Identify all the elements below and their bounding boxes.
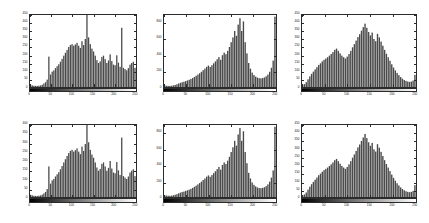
x-tick-mark <box>186 84 187 86</box>
grayscale-colorbar <box>301 88 417 93</box>
x-tick-label: 150 <box>90 204 95 207</box>
x-tick-mark <box>325 84 326 86</box>
x-tick-label: 0 <box>28 204 30 207</box>
y-tick-mark-right <box>134 72 136 73</box>
grayscale-colorbar <box>29 198 137 203</box>
x-tick-label: 0 <box>162 204 164 207</box>
y-tick-mark <box>164 23 166 24</box>
histogram-panel-top-center: 0200400600800050100150200250 <box>163 14 277 88</box>
y-tick-label: 800 <box>156 131 161 134</box>
x-tick-mark-top <box>94 15 95 17</box>
y-tick-label: 600 <box>156 147 161 150</box>
x-tick-mark-top <box>231 125 232 127</box>
x-tick-label: 250 <box>272 204 277 207</box>
x-tick-mark <box>209 195 210 197</box>
x-tick-mark-top <box>209 15 210 17</box>
grayscale-colorbar <box>301 198 417 203</box>
y-tick-label: 600 <box>156 37 161 40</box>
histogram-panel-top-right: 0501001502002503003504004500501001502002… <box>301 14 417 88</box>
y-tick-mark-right <box>414 56 416 57</box>
y-tick-mark <box>164 150 166 151</box>
y-tick-label: 200 <box>294 164 299 167</box>
y-tick-label: 50 <box>296 188 299 191</box>
y-tick-mark-right <box>134 80 136 81</box>
x-tick-mark-top <box>325 125 326 127</box>
x-tick-label: 50 <box>49 93 52 96</box>
x-tick-mark-top <box>276 15 277 17</box>
y-tick-mark-right <box>134 39 136 40</box>
y-tick-mark-right <box>134 190 136 191</box>
y-tick-mark <box>302 125 304 126</box>
y-tick-label: 100 <box>22 70 27 73</box>
x-tick-label: 100 <box>344 204 349 207</box>
y-tick-mark-right <box>414 64 416 65</box>
y-tick-mark <box>30 190 32 191</box>
x-tick-label: 100 <box>205 93 210 96</box>
y-tick-mark-right <box>414 191 416 192</box>
x-tick-mark-top <box>393 15 394 17</box>
plot-area <box>163 124 277 198</box>
y-tick-mark <box>164 39 166 40</box>
histogram-panel-top-left: 0501001502002503003504004500501001502002… <box>29 14 137 88</box>
x-tick-mark <box>370 195 371 197</box>
y-tick-mark-right <box>274 56 276 57</box>
plot-area <box>301 14 417 88</box>
y-tick-label: 300 <box>294 147 299 150</box>
y-tick-label: 0 <box>160 196 162 199</box>
y-tick-mark <box>302 191 304 192</box>
y-tick-mark-right <box>274 133 276 134</box>
x-tick-mark-top <box>115 15 116 17</box>
y-tick-mark-right <box>134 64 136 65</box>
y-tick-mark-right <box>414 133 416 134</box>
x-tick-mark <box>51 195 52 197</box>
y-tick-label: 50 <box>24 78 27 81</box>
x-tick-mark <box>325 195 326 197</box>
histogram-bars <box>30 15 136 87</box>
plot-area <box>301 124 417 198</box>
y-tick-mark <box>164 166 166 167</box>
x-tick-mark-top <box>209 125 210 127</box>
histogram-bars <box>302 125 416 197</box>
y-tick-mark <box>30 134 32 135</box>
x-tick-mark <box>164 84 165 86</box>
histogram-panel-bottom-right: 0501001502002503003504004500501001502002… <box>301 124 417 198</box>
x-tick-mark <box>416 195 417 197</box>
x-tick-label: 250 <box>272 93 277 96</box>
x-tick-mark-top <box>393 125 394 127</box>
y-tick-label: 0 <box>160 86 162 89</box>
y-tick-mark-right <box>414 80 416 81</box>
y-tick-label: 150 <box>22 169 27 172</box>
y-tick-mark <box>302 150 304 151</box>
y-tick-mark <box>302 72 304 73</box>
x-tick-label: 50 <box>322 204 325 207</box>
y-tick-label: 100 <box>294 180 299 183</box>
y-tick-label: 0 <box>298 86 300 89</box>
histogram-figure-grid: 0501001502002503003504004500501001502002… <box>0 0 429 223</box>
x-tick-mark-top <box>231 15 232 17</box>
x-tick-mark <box>72 84 73 86</box>
x-tick-mark <box>253 195 254 197</box>
y-tick-mark <box>164 183 166 184</box>
y-tick-label: 0 <box>26 86 28 89</box>
x-tick-mark <box>302 84 303 86</box>
x-tick-mark-top <box>164 15 165 17</box>
x-tick-mark <box>231 84 232 86</box>
x-tick-mark <box>393 84 394 86</box>
y-tick-mark-right <box>414 47 416 48</box>
x-tick-mark-top <box>253 15 254 17</box>
x-tick-mark-top <box>115 125 116 127</box>
x-tick-mark-top <box>347 15 348 17</box>
x-tick-label: 150 <box>367 93 372 96</box>
y-tick-mark <box>164 72 166 73</box>
y-tick-mark <box>30 31 32 32</box>
x-tick-label: 250 <box>412 93 417 96</box>
y-tick-mark-right <box>414 72 416 73</box>
x-tick-mark <box>94 195 95 197</box>
y-tick-label: 400 <box>22 20 27 23</box>
plot-area <box>29 14 137 88</box>
x-tick-label: 150 <box>228 93 233 96</box>
y-tick-mark-right <box>134 23 136 24</box>
y-tick-label: 300 <box>22 141 27 144</box>
x-tick-label: 0 <box>300 204 302 207</box>
y-tick-mark-right <box>274 39 276 40</box>
